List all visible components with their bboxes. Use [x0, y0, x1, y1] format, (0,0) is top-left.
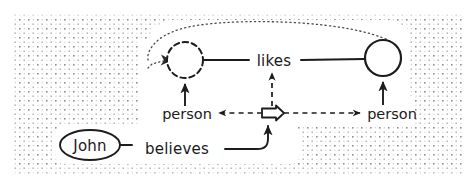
conceptual-graph-svg: likes John believes person person: [0, 0, 476, 187]
figure-canvas: likes John believes person person: [0, 0, 476, 187]
left-referent-circle: [167, 42, 203, 78]
label-john: John: [72, 137, 106, 155]
label-person-right: person: [367, 106, 417, 122]
label-person-left: person: [162, 106, 212, 122]
label-believes: believes: [145, 140, 209, 158]
label-likes: likes: [257, 52, 292, 70]
likes-edge-right: [301, 59, 365, 60]
right-referent-circle: [365, 40, 401, 76]
